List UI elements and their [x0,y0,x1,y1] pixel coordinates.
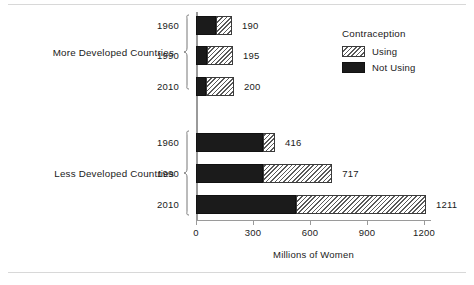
bar-segment-using[interactable] [263,164,333,183]
x-tick-label-900: 900 [359,227,375,238]
group-brace-more-developed [183,14,190,90]
legend-swatch-not-using-icon [342,62,365,73]
bar-segment-not-using[interactable] [196,195,296,214]
year-label-1960: 1960 [145,137,179,148]
x-tick-0 [196,220,197,225]
chart-figure: 03006009001200 Millions of Women 1901952… [0,0,474,285]
bar-segment-using[interactable] [207,46,233,65]
bar-segment-not-using[interactable] [196,16,216,35]
x-tick-1200 [424,220,425,225]
legend-swatch-using-icon [342,46,365,57]
top-divider-rule [8,4,466,5]
bar-total-label: 416 [285,137,301,148]
group-label-more-developed: More Developed Countries [53,47,174,58]
bar-segment-using[interactable] [206,77,234,96]
bar-segment-not-using[interactable] [196,77,206,96]
chart-legend: Contraception Using Not Using [342,28,462,78]
bar-segment-using[interactable] [296,195,426,214]
legend-item-not-using[interactable]: Not Using [342,62,462,73]
bar-segment-not-using[interactable] [196,133,263,152]
x-tick-label-0: 0 [193,227,198,238]
x-tick-900 [367,220,368,225]
legend-label-using: Using [372,46,397,57]
x-tick-300 [253,220,254,225]
year-label-2010: 2010 [145,81,179,92]
bar-segment-not-using[interactable] [196,164,263,183]
x-tick-label-1200: 1200 [413,227,435,238]
x-tick-label-300: 300 [245,227,261,238]
bar-total-label: 195 [243,50,259,61]
group-label-less-developed: Less Developed Countries [54,168,174,179]
bar-total-label: 200 [244,81,260,92]
bar-total-label: 190 [242,20,258,31]
x-tick-label-600: 600 [302,227,318,238]
bar-total-label: 717 [342,168,358,179]
legend-label-not-using: Not Using [372,62,416,73]
category-axis-line [196,12,198,220]
group-brace-less-developed [183,130,190,216]
legend-item-using[interactable]: Using [342,46,462,57]
bar-total-label: 1211 [436,199,457,210]
bottom-divider-rule [8,272,466,273]
bar-segment-not-using[interactable] [196,46,207,65]
bar-segment-using[interactable] [216,16,232,35]
value-axis-line [196,220,431,221]
bar-segment-using[interactable] [263,133,275,152]
year-label-2010: 2010 [145,199,179,210]
x-tick-600 [310,220,311,225]
year-label-1960: 1960 [145,20,179,31]
legend-title: Contraception [342,28,462,39]
x-axis-title: Millions of Women [196,249,431,260]
